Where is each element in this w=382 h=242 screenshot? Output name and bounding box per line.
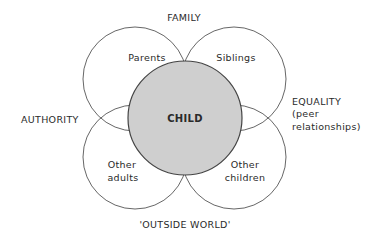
parents-label: Parents [128, 52, 165, 63]
venn-diagram: CHILD Parents Siblings Other adults Othe… [0, 0, 382, 242]
authority-label: AUTHORITY [21, 114, 79, 125]
equality-label-1: EQUALITY [292, 96, 341, 107]
family-label: FAMILY [167, 12, 201, 23]
other-children-label-1: Other [231, 159, 259, 170]
equality-label-2: (peer [292, 108, 319, 119]
other-children-label-2: children [225, 172, 266, 183]
siblings-label: Siblings [216, 52, 255, 63]
other-adults-label-2: adults [108, 172, 139, 183]
outside-world-label: 'OUTSIDE WORLD' [139, 219, 230, 230]
other-adults-label-1: Other [108, 159, 136, 170]
child-label: CHILD [167, 113, 203, 124]
equality-label-3: relationships) [292, 121, 361, 132]
